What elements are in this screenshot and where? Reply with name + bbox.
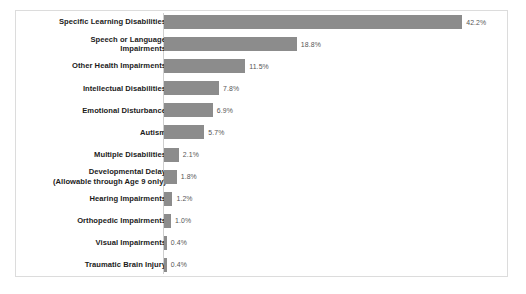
bar-value-label: 6.9% [217,107,233,114]
bar[interactable] [164,15,462,29]
bar-value-label: 1.0% [175,217,191,224]
category-label: Speech or Language Impairments [0,35,166,54]
bar-value-label: 11.5% [249,63,269,70]
category-label: Developmental Delay (Allowable through A… [0,167,166,186]
bar-group: 0.4% [164,254,505,276]
bar-value-label: 0.4% [171,261,187,268]
bar[interactable] [164,103,213,117]
bar-value-label: 2.1% [183,151,199,158]
bar-value-label: 0.4% [171,239,187,246]
bar-group: 2.1% [164,144,505,166]
chart-row: Intellectual Disabilities7.8% [16,77,507,99]
chart-row: Traumatic Brain Injury0.4% [16,254,507,276]
category-label: Emotional Disturbance [0,106,166,115]
chart-row: Emotional Disturbance6.9% [16,99,507,121]
bar[interactable] [164,59,245,73]
bar-group: 11.5% [164,55,505,77]
bar[interactable] [164,125,204,139]
bar-value-label: 5.7% [208,129,224,136]
chart-row: Developmental Delay (Allowable through A… [16,166,507,188]
chart-row: Specific Learning Disabilities42.2% [16,11,507,33]
category-label: Visual Impairments [0,238,166,247]
bar-group: 18.8% [164,33,505,55]
bar-group: 5.7% [164,121,505,143]
chart-row: Orthopedic Impairments1.0% [16,210,507,232]
bar-value-label: 1.2% [176,195,192,202]
chart-row: Visual Impairments0.4% [16,232,507,254]
chart-row: Multiple Disabilities2.1% [16,144,507,166]
bar[interactable] [164,170,177,184]
bar-group: 1.2% [164,188,505,210]
bar-value-label: 42.2% [466,19,486,26]
bar[interactable] [164,148,179,162]
category-label: Other Health Impairments [0,61,166,70]
bar-value-label: 1.8% [181,173,197,180]
bar-group: 0.4% [164,232,505,254]
chart-row: Speech or Language Impairments18.8% [16,33,507,55]
bar[interactable] [164,37,297,51]
category-label: Traumatic Brain Injury [0,260,166,269]
bar-group: 42.2% [164,11,505,33]
category-label: Multiple Disabilities [0,150,166,159]
bar-value-label: 18.8% [301,41,321,48]
bar-group: 1.8% [164,166,505,188]
category-label: Orthopedic Impairments [0,216,166,225]
bar-group: 7.8% [164,77,505,99]
plot-area: Specific Learning Disabilities42.2%Speec… [16,11,507,276]
bar-group: 6.9% [164,99,505,121]
bar[interactable] [164,258,167,272]
bar-value-label: 7.8% [223,85,239,92]
bar-group: 1.0% [164,210,505,232]
bar[interactable] [164,192,172,206]
chart-container: Specific Learning Disabilities42.2%Speec… [15,10,508,277]
chart-row: Other Health Impairments11.5% [16,55,507,77]
category-label: Intellectual Disabilities [0,84,166,93]
chart-row: Autism5.7% [16,121,507,143]
category-label: Specific Learning Disabilities [0,17,166,26]
bar[interactable] [164,81,219,95]
chart-row: Hearing Impairments1.2% [16,188,507,210]
category-label: Hearing Impairments [0,194,166,203]
bar[interactable] [164,214,171,228]
bar[interactable] [164,236,167,250]
category-label: Autism [0,128,166,137]
